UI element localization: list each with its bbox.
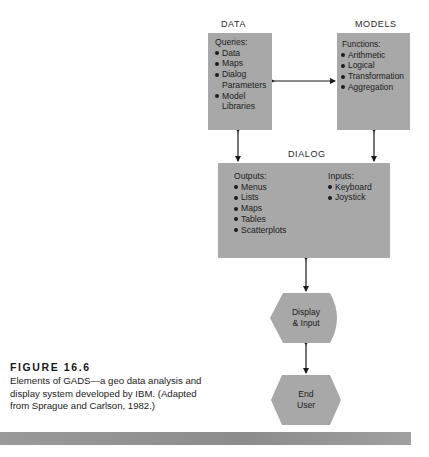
bottom-divider-bar <box>0 432 411 445</box>
display-line2: & Input <box>276 318 336 329</box>
dialog-box: Outputs: Menus Lists Maps Tables Scatter… <box>218 163 390 258</box>
list-item: Tables <box>234 214 286 225</box>
list-item: Arithmetic <box>341 50 410 61</box>
display-line1: Display <box>276 307 336 318</box>
list-item: Logical <box>341 60 410 71</box>
data-box-title: Queries: <box>215 37 272 48</box>
models-heading: MODELS <box>355 19 397 29</box>
list-item: Maps <box>234 203 286 214</box>
display-input-label: Display & Input <box>276 307 336 328</box>
figure-title: FIGURE 16.6 <box>10 361 91 373</box>
outputs-title: Outputs: <box>234 171 286 182</box>
list-item: Scatterplots <box>234 225 286 236</box>
inputs-title: Inputs: <box>328 171 372 182</box>
models-box-title: Functions: <box>341 39 410 50</box>
list-item: Model <box>215 91 272 102</box>
models-box: Functions: Arithmetic Logical Transforma… <box>337 33 410 130</box>
data-box: Queries: Data Maps Dialog Parameters Mod… <box>208 33 272 130</box>
dialog-inputs: Inputs: Keyboard Joystick <box>328 171 372 203</box>
list-item-continuation: Libraries <box>215 101 272 112</box>
end-user-line1: End <box>276 389 336 400</box>
list-item: Lists <box>234 192 286 203</box>
list-item: Keyboard <box>328 182 372 193</box>
end-user-label: End User <box>276 389 336 410</box>
models-box-list: Arithmetic Logical Transformation Aggreg… <box>341 50 410 93</box>
dialog-outputs: Outputs: Menus Lists Maps Tables Scatter… <box>234 171 286 235</box>
outputs-list: Menus Lists Maps Tables Scatterplots <box>234 182 286 236</box>
end-user-line2: User <box>276 400 336 411</box>
list-item-continuation: Parameters <box>215 80 272 91</box>
list-item: Transformation <box>341 71 410 82</box>
list-item: Joystick <box>328 192 372 203</box>
list-item: Aggregation <box>341 82 410 93</box>
inputs-list: Keyboard Joystick <box>328 182 372 203</box>
data-box-list: Data Maps Dialog Parameters Model Librar… <box>215 48 272 112</box>
list-item: Menus <box>234 182 286 193</box>
list-item: Data <box>215 48 272 59</box>
data-heading: DATA <box>221 19 246 29</box>
figure-caption: Elements of GADS—a geo data analysis and… <box>10 375 210 413</box>
dialog-heading: DIALOG <box>288 149 326 159</box>
list-item: Dialog <box>215 69 272 80</box>
list-item: Maps <box>215 58 272 69</box>
